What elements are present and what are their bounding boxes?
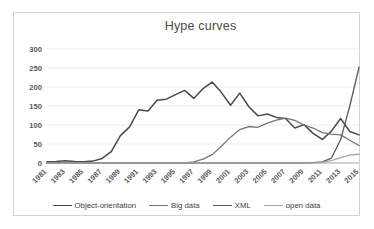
- data-series: [47, 67, 359, 163]
- y-tick-label: 150: [29, 102, 42, 111]
- legend-label: open data: [286, 201, 321, 210]
- y-tick-label: 300: [29, 45, 42, 54]
- series-line-xml: [47, 67, 359, 163]
- x-tick-label: 1983: [49, 167, 67, 185]
- x-tick-label: 2001: [214, 167, 232, 185]
- legend-swatch-icon: [264, 205, 283, 206]
- x-tick-label: 1999: [196, 167, 214, 185]
- y-tick-label: 100: [29, 121, 42, 130]
- x-tick-label: 2015: [342, 167, 360, 185]
- legend-label: Object-orientation: [75, 201, 137, 210]
- legend-label: Big data: [171, 201, 200, 210]
- legend-item-object-orientation[interactable]: Object-orientation: [53, 201, 137, 210]
- legend-label: XML: [235, 201, 251, 210]
- y-tick-label: 250: [29, 64, 42, 73]
- y-tick-label: 200: [29, 83, 42, 92]
- y-axis-tick-labels: 050100150200250300: [29, 45, 42, 168]
- x-tick-label: 1993: [141, 167, 159, 185]
- x-tick-label: 1987: [85, 167, 103, 185]
- x-tick-label: 2009: [287, 167, 305, 185]
- x-tick-label: 1981: [30, 167, 48, 185]
- legend-swatch-icon: [53, 205, 72, 206]
- x-tick-label: 2013: [324, 167, 342, 185]
- plot-area: 050100150200250300 198119831985198719891…: [14, 13, 361, 217]
- x-tick-label: 1997: [177, 167, 195, 185]
- legend-swatch-icon: [213, 205, 232, 206]
- x-tick-label: 2005: [251, 167, 269, 185]
- x-tick-label: 1995: [159, 167, 177, 185]
- x-tick-label: 1991: [122, 167, 140, 185]
- x-tick-label: 2003: [232, 167, 250, 185]
- series-line-object-orientation: [47, 82, 359, 162]
- x-axis-tick-labels: 1981198319851987198919911993199519971999…: [30, 167, 360, 185]
- legend-item-open-data[interactable]: open data: [264, 201, 321, 210]
- x-tick-label: 1989: [104, 167, 122, 185]
- legend-item-xml[interactable]: XML: [213, 201, 251, 210]
- legend-swatch-icon: [149, 205, 168, 206]
- legend-item-big-data[interactable]: Big data: [149, 201, 200, 210]
- x-tick-label: 2007: [269, 167, 287, 185]
- y-tick-label: 50: [34, 140, 42, 149]
- chart-legend: Object-orientationBig dataXMLopen data: [14, 201, 359, 210]
- x-tick-label: 2011: [306, 167, 324, 185]
- gridlines: [47, 49, 359, 163]
- chart-container: Hype curves 050100150200250300 198119831…: [13, 12, 360, 216]
- x-tick-label: 1985: [67, 167, 85, 185]
